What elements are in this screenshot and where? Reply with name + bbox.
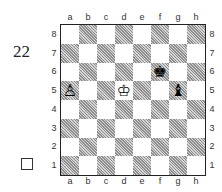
square-a6 [61,63,79,82]
white-king-icon: ♔ [115,81,133,100]
square-h5 [187,81,205,100]
white-to-move-indicator [21,158,33,170]
file-label-h: h [187,176,205,186]
file-label-h: h [187,12,205,22]
square-b4 [79,100,97,119]
file-label-c: c [97,176,115,186]
square-e3 [133,119,151,138]
square-a7 [61,44,79,63]
square-g6 [169,63,187,82]
rank-label-4: 4 [49,104,59,114]
square-f6: ♚ [151,63,169,82]
square-f4 [151,100,169,119]
square-f3 [151,119,169,138]
black-king-icon: ♚ [151,63,169,82]
square-e1 [133,156,151,175]
square-e8 [133,25,151,44]
square-f8 [151,25,169,44]
square-e2 [133,138,151,157]
square-e6 [133,63,151,82]
square-g5: ♝ [169,81,187,100]
black-bishop-icon: ♝ [169,81,187,100]
rank-label-5: 5 [207,85,217,95]
square-c6 [97,63,115,82]
square-a4 [61,100,79,119]
square-c8 [97,25,115,44]
square-g3 [169,119,187,138]
file-label-c: c [97,12,115,22]
square-b5 [79,81,97,100]
file-label-f: f [151,12,169,22]
square-a1 [61,156,79,175]
square-h6 [187,63,205,82]
square-c4 [97,100,115,119]
diagram-number: 22 [13,42,30,62]
square-h3 [187,119,205,138]
file-label-e: e [133,176,151,186]
file-label-b: b [79,12,97,22]
square-d7 [115,44,133,63]
square-a3 [61,119,79,138]
square-d2 [115,138,133,157]
square-b7 [79,44,97,63]
rank-label-1: 1 [207,160,217,170]
rank-label-5: 5 [49,85,59,95]
square-b2 [79,138,97,157]
file-label-a: a [61,12,79,22]
square-f5 [151,81,169,100]
square-c7 [97,44,115,63]
file-label-d: d [115,12,133,22]
file-label-b: b [79,176,97,186]
square-d6 [115,63,133,82]
file-label-e: e [133,12,151,22]
square-c5 [97,81,115,100]
square-d5: ♔ [115,81,133,100]
square-a2 [61,138,79,157]
rank-label-6: 6 [207,66,217,76]
square-b3 [79,119,97,138]
square-g4 [169,100,187,119]
square-f1 [151,156,169,175]
square-b8 [79,25,97,44]
square-e7 [133,44,151,63]
chess-board: ♚♙♔♝ [60,24,206,176]
file-label-a: a [61,176,79,186]
rank-label-3: 3 [49,123,59,133]
rank-label-2: 2 [49,141,59,151]
square-h7 [187,44,205,63]
square-g7 [169,44,187,63]
square-d1 [115,156,133,175]
square-b6 [79,63,97,82]
square-a5: ♙ [61,81,79,100]
file-label-g: g [169,12,187,22]
file-label-g: g [169,176,187,186]
rank-label-1: 1 [49,160,59,170]
rank-label-3: 3 [207,123,217,133]
square-g2 [169,138,187,157]
file-label-d: d [115,176,133,186]
square-e5 [133,81,151,100]
rank-label-7: 7 [207,48,217,58]
file-label-f: f [151,176,169,186]
rank-label-8: 8 [207,29,217,39]
square-c1 [97,156,115,175]
square-d4 [115,100,133,119]
square-e4 [133,100,151,119]
rank-label-6: 6 [49,66,59,76]
rank-label-2: 2 [207,141,217,151]
square-h8 [187,25,205,44]
rank-label-8: 8 [49,29,59,39]
square-b1 [79,156,97,175]
square-c3 [97,119,115,138]
white-pawn-icon: ♙ [61,81,79,100]
square-d8 [115,25,133,44]
square-g8 [169,25,187,44]
rank-label-7: 7 [49,48,59,58]
square-c2 [97,138,115,157]
square-h2 [187,138,205,157]
square-g1 [169,156,187,175]
square-f2 [151,138,169,157]
square-h4 [187,100,205,119]
square-f7 [151,44,169,63]
square-a8 [61,25,79,44]
